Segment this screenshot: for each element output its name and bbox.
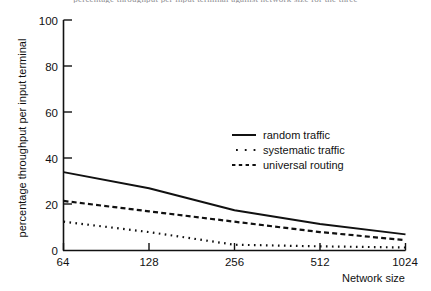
x-tick-label-256: 256	[225, 256, 244, 268]
x-tick-label-128: 128	[139, 256, 158, 268]
legend-label-universal-routing: universal routing	[263, 159, 344, 171]
y-tick-label-60: 60	[45, 107, 58, 119]
x-axis-title: Network size	[342, 272, 405, 284]
x-tick-label-512: 512	[310, 256, 329, 268]
x-tick-label-64: 64	[57, 256, 70, 268]
series-group	[64, 172, 406, 247]
line-chart-svg: 100 80 60 40 20 0 64 128 256 512 1024 pe…	[0, 0, 431, 291]
y-axis-title: percentage throughput per input terminal	[16, 39, 28, 238]
y-tick-label-40: 40	[45, 153, 58, 165]
y-tick-label-80: 80	[45, 61, 58, 73]
legend-label-systematic-traffic: systematic traffic	[263, 144, 345, 156]
chart-legend: random traffic systematic traffic univer…	[232, 129, 345, 171]
x-tick-labels: 64 128 256 512 1024	[57, 256, 419, 268]
series-line-random-traffic	[64, 172, 406, 234]
y-tick-label-100: 100	[39, 15, 58, 27]
y-tick-label-0: 0	[52, 245, 58, 257]
cropped-caption-text: percentage throughput per input terminal…	[0, 0, 431, 3]
x-tick-marks	[64, 243, 406, 251]
y-tick-marks	[64, 20, 73, 204]
chart-figure: percentage throughput per input terminal…	[0, 0, 431, 291]
legend-label-random-traffic: random traffic	[263, 129, 331, 141]
x-tick-label-1024: 1024	[392, 256, 418, 268]
y-tick-label-20: 20	[45, 199, 58, 211]
y-tick-labels: 100 80 60 40 20 0	[39, 15, 58, 257]
series-line-universal-routing	[64, 201, 406, 240]
